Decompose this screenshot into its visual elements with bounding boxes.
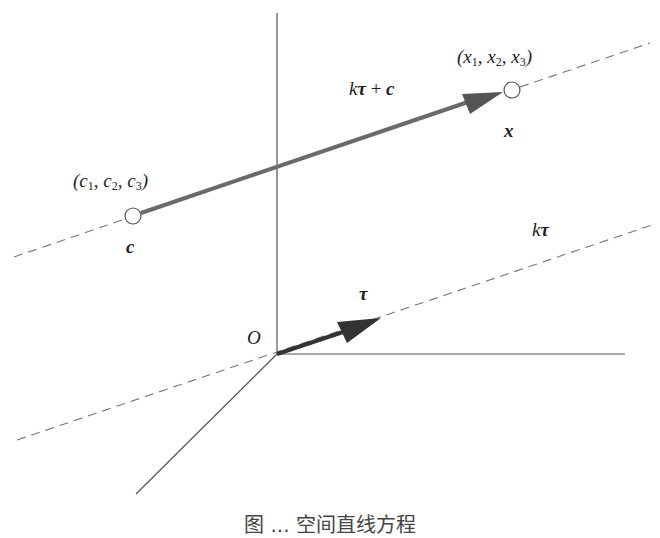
arrow-tau-head — [337, 318, 381, 343]
point-c-coordinates: (c1, c2, c3) — [73, 170, 148, 194]
point-x-marker — [504, 82, 520, 98]
arrow-k-tau-plus-c-shaft — [141, 102, 468, 213]
point-x-coordinates: (x1, x2, x3) — [457, 46, 532, 70]
figure-caption: 图 ... 空间直线方程 — [0, 509, 660, 538]
label-tau: τ — [359, 283, 367, 305]
point-x-vector-label: x — [504, 120, 514, 142]
x-axis — [136, 354, 277, 494]
label-k-tau: kτ — [532, 219, 549, 241]
line-through-c-dashed-right — [520, 43, 650, 87]
arrow-tau-shaft — [277, 332, 343, 354]
origin-label: O — [247, 327, 261, 349]
arrow-k-tau-plus-c-head — [462, 92, 503, 114]
point-c-vector-label: c — [126, 236, 134, 258]
line-through-c-dashed-left — [14, 219, 125, 257]
point-c-marker — [125, 208, 141, 224]
line-k-tau-dashed — [17, 225, 652, 440]
label-k-tau-plus-c: kτ + c — [349, 78, 395, 100]
